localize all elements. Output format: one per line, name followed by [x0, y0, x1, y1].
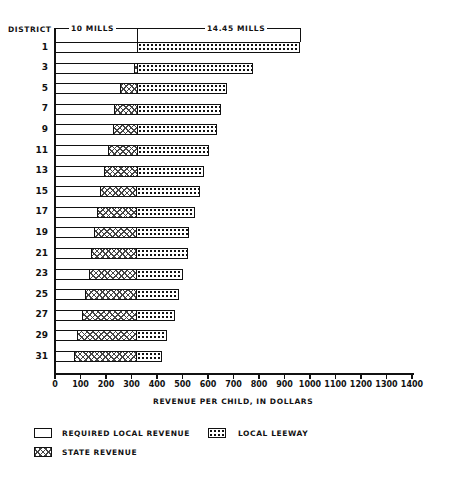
- state-revenue-segment: [104, 167, 137, 176]
- x-tick-label: 1400: [401, 380, 423, 389]
- legend-label-required: REQUIRED LOCAL REVENUE: [62, 429, 190, 438]
- x-tick: [360, 374, 362, 379]
- x-tick-label: 400: [149, 380, 166, 389]
- district-bar: [55, 310, 175, 321]
- x-tick-label: 800: [251, 380, 268, 389]
- district-bar: [55, 83, 227, 94]
- local-leeway-segment: [136, 290, 177, 299]
- required-local-segment: [56, 228, 94, 237]
- legend-swatch-leeway: [208, 428, 226, 438]
- local-leeway-segment: [137, 84, 226, 93]
- required-local-segment: [56, 249, 91, 258]
- local-leeway-segment: [137, 167, 204, 176]
- x-tick: [156, 374, 158, 379]
- x-tick: [411, 374, 413, 379]
- required-local-segment: [56, 64, 134, 73]
- local-leeway-segment: [137, 43, 299, 52]
- state-revenue-segment: [94, 228, 137, 237]
- district-bar: [55, 63, 253, 74]
- state-revenue-segment: [114, 105, 137, 114]
- state-revenue-segment: [85, 290, 136, 299]
- state-revenue-segment: [120, 84, 136, 93]
- x-tick: [207, 374, 209, 379]
- state-revenue-segment: [91, 249, 136, 258]
- district-label: 27: [20, 309, 48, 319]
- x-tick-label: 100: [72, 380, 89, 389]
- required-local-segment: [56, 352, 74, 361]
- required-local-segment: [56, 105, 114, 114]
- y-axis: [54, 28, 56, 374]
- x-tick-label: 1100: [324, 380, 346, 389]
- district-label: 25: [20, 289, 48, 299]
- x-tick-label: 500: [174, 380, 191, 389]
- x-tick-label: 0: [52, 380, 58, 389]
- x-tick: [105, 374, 107, 379]
- district-bar: [55, 207, 195, 218]
- required-local-segment: [56, 125, 113, 134]
- x-axis-label: REVENUE PER CHILD, IN DOLLARS: [153, 397, 313, 406]
- district-label: 11: [20, 145, 48, 155]
- required-local-segment: [56, 84, 120, 93]
- fourteen-mills-right-line: [300, 28, 301, 42]
- district-bar: [55, 124, 217, 135]
- local-leeway-segment: [137, 105, 220, 114]
- state-revenue-segment: [77, 331, 136, 340]
- x-tick-label: 900: [276, 380, 293, 389]
- district-label: 1: [20, 42, 48, 52]
- district-bar: [55, 269, 183, 280]
- x-tick: [309, 374, 311, 379]
- district-label: 21: [20, 248, 48, 258]
- district-bar: [55, 227, 189, 238]
- x-tick: [233, 374, 235, 379]
- legend-label-leeway: LOCAL LEEWAY: [238, 429, 308, 438]
- state-revenue-segment: [97, 208, 136, 217]
- district-label: 3: [20, 62, 48, 72]
- district-bar: [55, 351, 162, 362]
- required-local-segment: [56, 43, 137, 52]
- district-label: 15: [20, 186, 48, 196]
- x-tick: [335, 374, 337, 379]
- local-leeway-segment: [136, 249, 186, 258]
- local-leeway-segment: [136, 331, 166, 340]
- required-local-segment: [56, 167, 104, 176]
- local-leeway-segment: [136, 228, 188, 237]
- x-tick-label: 1300: [375, 380, 397, 389]
- state-revenue-segment: [89, 270, 137, 279]
- local-leeway-segment: [136, 270, 181, 279]
- x-tick-label: 700: [225, 380, 242, 389]
- district-bar: [55, 166, 204, 177]
- mills-annotation: 10 MILLS 14.45 MILLS: [55, 22, 305, 42]
- local-leeway-segment: [136, 352, 161, 361]
- x-tick-label: 200: [98, 380, 115, 389]
- district-bar: [55, 145, 209, 156]
- x-tick: [54, 374, 56, 379]
- local-leeway-segment: [136, 311, 174, 320]
- x-tick: [386, 374, 388, 379]
- x-tick: [80, 374, 82, 379]
- district-bar: [55, 330, 167, 341]
- district-bar: [55, 186, 200, 197]
- x-tick-label: 1200: [350, 380, 372, 389]
- local-leeway-segment: [137, 125, 216, 134]
- district-label: 9: [20, 124, 48, 134]
- district-bar: [55, 289, 179, 300]
- x-tick: [284, 374, 286, 379]
- state-revenue-segment: [113, 125, 137, 134]
- fourteen-mills-label: 14.45 MILLS: [205, 24, 267, 33]
- x-tick-label: 1000: [299, 380, 321, 389]
- required-local-segment: [56, 290, 85, 299]
- local-leeway-segment: [137, 146, 209, 155]
- mills-divider-line: [137, 28, 138, 42]
- state-revenue-segment: [100, 187, 136, 196]
- local-leeway-segment: [136, 208, 194, 217]
- legend-label-state: STATE REVENUE: [62, 448, 137, 457]
- state-revenue-segment: [82, 311, 136, 320]
- legend-swatch-state: [34, 447, 52, 457]
- required-local-segment: [56, 270, 89, 279]
- x-tick: [182, 374, 184, 379]
- district-bar: [55, 104, 221, 115]
- required-local-segment: [56, 331, 77, 340]
- district-label: 13: [20, 165, 48, 175]
- required-local-segment: [56, 208, 97, 217]
- district-bar: [55, 248, 188, 259]
